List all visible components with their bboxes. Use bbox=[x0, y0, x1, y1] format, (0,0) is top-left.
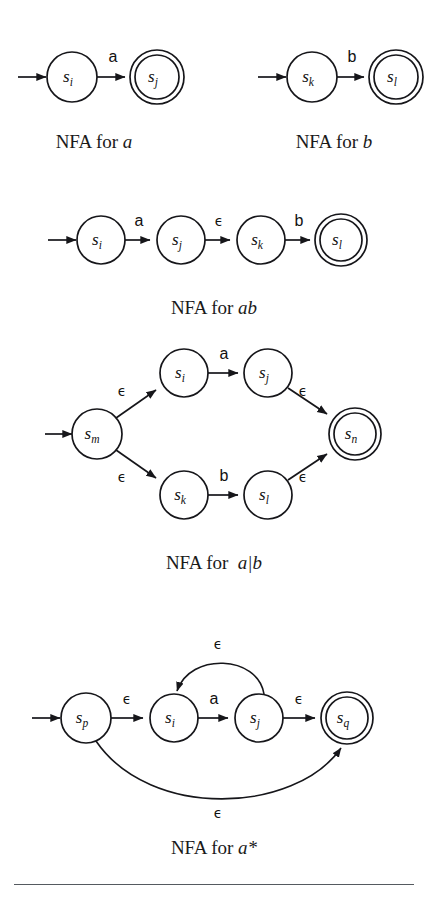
transition-label-alt-lower-join-epsilon: ϵ bbox=[299, 469, 307, 485]
nfa-figure: si a sj sk b sl bbox=[0, 0, 428, 902]
transition-label-star-a: a bbox=[210, 690, 219, 707]
transition-label-alt-upper-join-epsilon: ϵ bbox=[299, 383, 307, 399]
caption-nfa-a-star: NFA for a* bbox=[0, 838, 428, 857]
bypass-arc-epsilon bbox=[96, 741, 341, 799]
transition-label-star-exit-epsilon: ϵ bbox=[295, 691, 303, 707]
caption-nfa-b: NFA for b bbox=[120, 132, 428, 151]
transition-label-ab-epsilon: ϵ bbox=[215, 213, 223, 229]
caption-nfa-ab: NFA for ab bbox=[0, 298, 428, 317]
transition-label-ab-b: b bbox=[295, 212, 304, 229]
caption-prefix-a-or-b: NFA for bbox=[166, 552, 233, 573]
loopback-arc-epsilon bbox=[177, 663, 264, 694]
transition-label-alt-b: b bbox=[220, 467, 229, 484]
caption-regex-b: b bbox=[363, 131, 373, 152]
caption-prefix-ab: NFA for bbox=[171, 297, 238, 318]
nfa-star-graph: sp ϵ si a sj ϵ sq ϵ bbox=[32, 636, 373, 821]
nfa-alternation-graph: sm ϵ si a sj ϵ ϵ sk bbox=[45, 345, 381, 519]
transition-label-a: a bbox=[109, 48, 118, 65]
caption-regex-a-or-b: a|b bbox=[238, 552, 262, 573]
caption-nfa-a-or-b: NFA for a|b bbox=[0, 553, 428, 572]
transition-label-star-entry-epsilon: ϵ bbox=[123, 691, 131, 707]
nfa-a-graph: si a sj bbox=[18, 48, 184, 104]
loopback-label-epsilon: ϵ bbox=[214, 636, 222, 652]
nfa-b-graph: sk b sl bbox=[258, 48, 423, 104]
caption-regex-a-star: a* bbox=[238, 837, 257, 858]
transition-label-b: b bbox=[348, 48, 357, 65]
caption-prefix-a-star: NFA for bbox=[171, 837, 238, 858]
transition-label-alt-lower-epsilon: ϵ bbox=[118, 469, 126, 485]
bottom-divider-rule bbox=[14, 884, 414, 885]
transition-label-alt-upper-epsilon: ϵ bbox=[118, 383, 126, 399]
transition-label-ab-a: a bbox=[135, 212, 144, 229]
transition-arrow-alt-lower-join-epsilon bbox=[288, 454, 327, 480]
nfa-ab-graph: si a sj ϵ sk b sl bbox=[48, 212, 367, 266]
caption-regex-ab: ab bbox=[238, 297, 257, 318]
transition-label-alt-a: a bbox=[220, 345, 229, 362]
caption-prefix-b: NFA for bbox=[296, 131, 363, 152]
caption-prefix-a: NFA for bbox=[56, 131, 123, 152]
bypass-label-epsilon: ϵ bbox=[214, 805, 222, 821]
transition-arrow-alt-upper-join-epsilon bbox=[288, 388, 327, 414]
